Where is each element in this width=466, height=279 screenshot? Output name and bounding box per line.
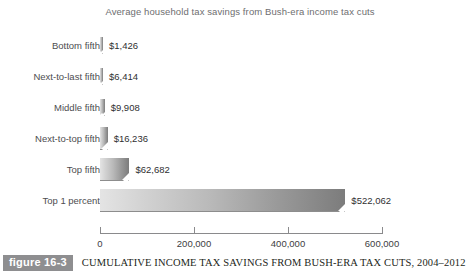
bar-row: Middle fifth$9,908 [0,92,427,123]
axis-tick [100,227,101,234]
bar-bevel [122,173,129,180]
bar[interactable] [100,189,345,212]
bar[interactable] [100,127,108,150]
category-label: Bottom fifth [0,40,100,51]
chart-title: Average household tax savings from Bush-… [60,6,420,17]
value-label: $16,236 [114,133,148,144]
bar-row: Top 1 percent$522,062 [0,185,427,216]
bar-bevel [100,50,103,53]
axis-tick-label: 400,000 [271,238,305,249]
value-label: $6,414 [109,71,138,82]
figure-number-badge: figure 16-3 [3,255,73,271]
value-label: $62,682 [135,164,169,175]
category-label: Top fifth [0,164,100,175]
bar-bevel [338,204,345,211]
axis-tick [288,227,289,234]
figure-caption-text: CUMULATIVE INCOME TAX SAVINGS FROM BUSH-… [82,257,466,268]
axis-tick [194,227,195,234]
bar-bevel [101,142,108,149]
value-label: $9,908 [111,102,140,113]
axis-tick-label: 600,000 [365,238,399,249]
value-label: $1,426 [109,40,138,51]
bar[interactable] [100,68,103,85]
bar[interactable] [100,158,129,181]
value-label: $522,062 [351,195,391,206]
axis-tick [382,227,383,234]
category-label: Next-to-top fifth [0,133,100,144]
bar-bevel [100,81,103,84]
bar-bevel [102,112,105,115]
bar-row: Bottom fifth$1,426 [0,30,427,61]
category-label: Next-to-last fifth [0,71,100,82]
x-axis [100,233,382,234]
category-label: Top 1 percent [0,195,100,206]
axis-tick-label: 0 [97,238,102,249]
category-label: Middle fifth [0,102,100,113]
bar[interactable] [100,37,103,54]
bar[interactable] [100,99,105,116]
bar-rows: Bottom fifth$1,426Next-to-last fifth$6,4… [0,30,427,216]
bar-row: Next-to-top fifth$16,236 [0,123,427,154]
bar-row: Next-to-last fifth$6,414 [0,61,427,92]
axis-tick-label: 200,000 [177,238,211,249]
bar-row: Top fifth$62,682 [0,154,427,185]
figure-caption-strip: figure 16-3 CUMULATIVE INCOME TAX SAVING… [0,253,427,272]
